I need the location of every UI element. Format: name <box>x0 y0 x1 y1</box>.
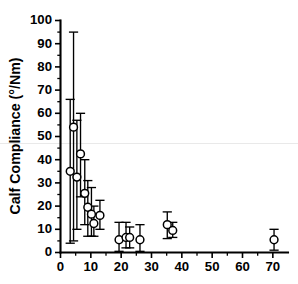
y-tick-label: 60 <box>37 105 52 120</box>
y-tick-label: 40 <box>37 152 52 167</box>
data-point-marker[interactable] <box>66 167 74 175</box>
x-tick-label: 60 <box>235 259 250 274</box>
y-tick-label: 0 <box>45 244 52 259</box>
data-point-marker[interactable] <box>81 189 89 197</box>
data-point-marker[interactable] <box>136 236 144 244</box>
data-point-marker[interactable] <box>73 173 81 181</box>
data-point-marker[interactable] <box>270 236 278 244</box>
y-tick-label: 100 <box>30 12 52 27</box>
data-point-marker[interactable] <box>77 150 85 158</box>
data-point-marker[interactable] <box>70 123 78 131</box>
y-tick-label: 20 <box>37 198 52 213</box>
y-tick-label: 70 <box>37 82 52 97</box>
x-tick-label: 30 <box>144 259 159 274</box>
x-tick-label: 70 <box>265 259 280 274</box>
scatter-plot: 0102030405060708090100010203040506070Cal… <box>0 0 298 284</box>
data-point-marker[interactable] <box>169 227 177 235</box>
y-tick-label: 80 <box>37 59 52 74</box>
data-point-marker[interactable] <box>96 211 104 219</box>
x-tick-label: 20 <box>114 259 129 274</box>
y-tick-label: 10 <box>37 221 52 236</box>
y-tick-label: 90 <box>37 36 52 51</box>
y-tick-label: 30 <box>37 175 52 190</box>
data-point-marker[interactable] <box>88 210 96 218</box>
y-tick-label: 50 <box>37 128 52 143</box>
x-tick-label: 0 <box>57 259 64 274</box>
x-tick-label: 40 <box>174 259 189 274</box>
figure-container: 0102030405060708090100010203040506070Cal… <box>0 0 298 284</box>
data-point-marker[interactable] <box>126 234 134 242</box>
data-point-marker[interactable] <box>90 220 98 228</box>
x-tick-label: 10 <box>83 259 98 274</box>
y-axis-title: Calf Compliance (°/Nm) <box>7 57 23 214</box>
x-tick-label: 50 <box>205 259 220 274</box>
